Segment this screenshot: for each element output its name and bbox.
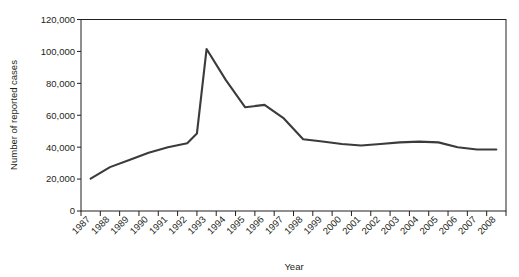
y-axis-tick-label: 100,000 [41, 46, 75, 57]
x-axis-tick-label: 2001 [340, 214, 363, 237]
y-axis-tick-label: 60,000 [46, 110, 75, 121]
x-axis-tick-label: 2005 [417, 214, 440, 237]
y-axis-tick-label: 20,000 [46, 173, 75, 184]
x-axis-tick-label: 1998 [282, 214, 305, 237]
chart-canvas: 020,00040,00060,00080,000100,000120,000 … [0, 0, 519, 277]
y-axis-tick-label: 120,000 [41, 14, 75, 25]
x-axis-tick-label: 2008 [475, 214, 498, 237]
data-series-line [91, 49, 497, 179]
x-axis-title: Year [284, 261, 303, 272]
x-axis-tick-label: 1989 [108, 214, 131, 237]
x-axis-tick-label: 1988 [89, 214, 112, 237]
y-axis-tick-label: 0 [70, 205, 75, 216]
y-axis-tick-labels: 020,00040,00060,00080,000100,000120,000 [41, 14, 75, 217]
x-axis-tick-label: 1996 [243, 214, 266, 237]
y-axis-tick-label: 80,000 [46, 78, 75, 89]
x-axis-tick-label: 2007 [456, 214, 479, 237]
y-axis-title: Number of reported cases [8, 60, 19, 170]
x-axis-tick-labels: 1987198819891990199119921993199419951996… [69, 214, 497, 237]
x-axis-tick-label: 2003 [378, 214, 401, 237]
x-axis-tick-label: 1992 [166, 214, 189, 237]
x-axis-tick-label: 2002 [359, 214, 382, 237]
x-axis-tick-label: 1999 [301, 214, 324, 237]
x-axis-tick-label: 1993 [185, 214, 208, 237]
x-axis-tick-label: 1991 [147, 214, 170, 237]
y-axis-tick-label: 40,000 [46, 142, 75, 153]
x-axis-tick-label: 1990 [127, 214, 150, 237]
x-axis-tick-label: 2000 [320, 214, 343, 237]
x-axis-tick-label: 1995 [224, 214, 247, 237]
line-chart: 020,00040,00060,00080,000100,000120,000 … [0, 0, 519, 277]
y-axis-tick-marks [77, 20, 81, 212]
x-axis-tick-marks [81, 211, 506, 216]
x-axis-tick-label: 1997 [263, 214, 286, 237]
x-axis-tick-label: 1994 [205, 214, 228, 237]
x-axis-tick-label: 2006 [436, 214, 459, 237]
x-axis-tick-label: 1987 [69, 214, 92, 237]
x-axis-tick-label: 2004 [398, 214, 421, 237]
plot-area-frame [81, 20, 506, 212]
